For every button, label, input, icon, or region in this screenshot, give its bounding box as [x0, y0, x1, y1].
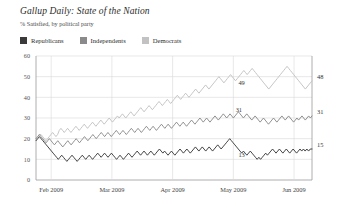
end-value-label: 48 — [317, 73, 323, 80]
y-axis-tick-label: 20 — [24, 135, 30, 142]
inline-value-label: 49 — [238, 79, 244, 86]
series-layer — [36, 66, 312, 161]
plot-area: 0102030405060 Feb 2009Mar 2009Apr 2009Ma… — [0, 0, 337, 214]
x-axis-tick-label: May 2009 — [220, 186, 246, 193]
data-labels-layer: 483115493113 — [236, 73, 324, 158]
series-line-independents — [36, 112, 312, 147]
y-axis-tick-label: 60 — [24, 52, 30, 59]
x-axis-tick-label: Mar 2009 — [99, 186, 124, 193]
end-value-label: 15 — [317, 141, 323, 148]
y-axis-ticks: 0102030405060 — [24, 52, 30, 183]
y-axis-tick-label: 10 — [24, 156, 30, 163]
series-line-democrats — [36, 66, 312, 140]
end-value-label: 31 — [317, 108, 323, 115]
y-axis-tick-label: 40 — [24, 94, 30, 101]
inline-value-label: 31 — [236, 106, 242, 113]
x-axis-tick-label: Apr 2009 — [160, 186, 184, 193]
x-axis-ticks: Feb 2009Mar 2009Apr 2009May 2009Jun 2009 — [39, 186, 305, 193]
inline-value-label: 13 — [238, 151, 244, 158]
y-axis-tick-label: 30 — [24, 114, 30, 121]
y-axis-tick-label: 0 — [27, 176, 30, 183]
y-axis-tick-label: 50 — [24, 73, 30, 80]
gallup-daily-chart: Gallup Daily: State of the Nation % Sati… — [0, 0, 337, 214]
x-axis-tick-label: Jun 2009 — [282, 186, 305, 193]
x-axis-tick-label: Feb 2009 — [39, 186, 63, 193]
